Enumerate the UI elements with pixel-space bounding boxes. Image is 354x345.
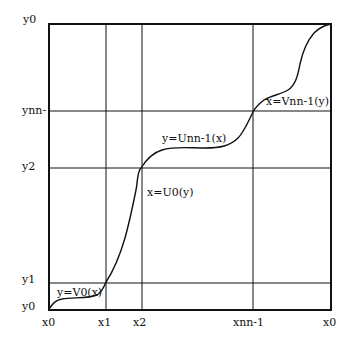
x-label-x1: x1 [98, 316, 111, 329]
y-label-y1: y1 [21, 273, 35, 286]
monotone-curve [49, 24, 331, 309]
label-x-vnn-1-y: x=Vnn-1(y) [266, 95, 329, 108]
outer-box [49, 24, 331, 310]
x-label-x2: x2 [133, 316, 146, 329]
y-label-bottom-y0: y0 [21, 300, 35, 313]
x-label-right-x0: x0 [323, 316, 336, 329]
y-label-y2: y2 [21, 160, 35, 173]
x-label-left-x0: x0 [42, 316, 55, 329]
y-label-ynn-1: ynn- [21, 104, 46, 117]
label-y-unn-1-x: y=Unn-1(x) [161, 132, 226, 145]
diagram-canvas: y=V0(x) x=U0(y) y=Unn-1(x) x=Vnn-1(y) y0… [0, 0, 354, 345]
x-label-xnn-1: xnn-1 [233, 316, 264, 329]
label-y-v0-x: y=V0(x) [56, 286, 102, 299]
y-label-top-y0: y0 [22, 13, 36, 26]
label-x-u0-y: x=U0(y) [147, 186, 194, 199]
